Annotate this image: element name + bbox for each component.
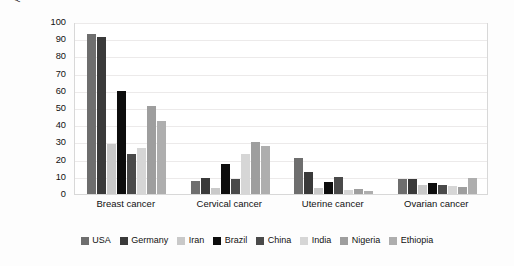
- y-tick-label: 50: [56, 104, 66, 113]
- legend-label: Iran: [189, 236, 205, 245]
- x-axis-labels: Breast cancerCervical cancerUterine canc…: [74, 198, 488, 214]
- bar-germany-breast[interactable]: [97, 37, 106, 194]
- bar-group: [75, 24, 179, 194]
- bar-groups: [75, 24, 487, 194]
- y-axis-title-text: Age-standardized incidence of cancer per…: [12, 0, 33, 18]
- bar-group: [386, 24, 490, 194]
- y-tick-label: 40: [56, 122, 66, 131]
- y-tick-label: 20: [56, 156, 66, 165]
- legend-label: USA: [92, 236, 111, 245]
- bar-nigeria-cervical[interactable]: [251, 142, 260, 194]
- bar-ethiopia-ovarian[interactable]: [468, 178, 477, 194]
- bar-iran-uterine[interactable]: [314, 188, 323, 194]
- legend-label: Germany: [131, 236, 168, 245]
- legend-label: Ethiopia: [401, 236, 434, 245]
- bar-group: [179, 24, 283, 194]
- bar-germany-cervical[interactable]: [201, 178, 210, 194]
- y-axis-ticks: 0102030405060708090100: [0, 23, 72, 195]
- bar-group: [282, 24, 386, 194]
- legend-swatch-icon: [81, 237, 89, 245]
- bar-usa-cervical[interactable]: [191, 181, 200, 194]
- bar-brazil-breast[interactable]: [117, 91, 126, 194]
- bar-usa-uterine[interactable]: [294, 158, 303, 194]
- legend-swatch-icon: [177, 237, 185, 245]
- legend-item-germany[interactable]: Germany: [120, 236, 169, 245]
- legend-swatch-icon: [120, 237, 128, 245]
- legend-label: Nigeria: [352, 236, 381, 245]
- chart-figure: Age-standardized incidence of cancer per…: [0, 0, 514, 266]
- legend-item-nigeria[interactable]: Nigeria: [340, 236, 380, 245]
- y-axis-title: Age-standardized incidence of cancer per…: [12, 0, 42, 18]
- plot-area: [74, 23, 488, 195]
- legend-item-china[interactable]: China: [256, 236, 291, 245]
- bar-china-breast[interactable]: [127, 154, 136, 194]
- y-tick-label: 10: [56, 173, 66, 182]
- x-axis-label: Uterine cancer: [302, 198, 364, 209]
- bar-china-uterine[interactable]: [334, 177, 343, 194]
- bar-iran-cervical[interactable]: [211, 188, 220, 194]
- bar-china-cervical[interactable]: [231, 179, 240, 194]
- bar-iran-breast[interactable]: [107, 144, 116, 194]
- bar-india-uterine[interactable]: [344, 190, 353, 194]
- y-tick-label: 100: [50, 18, 66, 27]
- x-axis-label: Cervical cancer: [197, 198, 262, 209]
- bar-india-cervical[interactable]: [241, 154, 250, 194]
- bar-nigeria-uterine[interactable]: [354, 189, 363, 194]
- chart-legend: USAGermanyIranBrazilChinaIndiaNigeriaEth…: [0, 236, 514, 245]
- bar-ethiopia-uterine[interactable]: [364, 191, 373, 194]
- bar-germany-uterine[interactable]: [304, 172, 313, 194]
- legend-swatch-icon: [389, 237, 397, 245]
- y-tick-label: 80: [56, 53, 66, 62]
- legend-label: Brazil: [225, 236, 248, 245]
- bar-india-breast[interactable]: [137, 148, 146, 194]
- bar-ethiopia-breast[interactable]: [157, 121, 166, 194]
- bar-china-ovarian[interactable]: [438, 185, 447, 194]
- y-tick-label: 90: [56, 36, 66, 45]
- bar-brazil-ovarian[interactable]: [428, 183, 437, 194]
- bar-nigeria-ovarian[interactable]: [458, 187, 467, 194]
- y-tick-label: 60: [56, 87, 66, 96]
- legend-item-ethiopia[interactable]: Ethiopia: [389, 236, 433, 245]
- legend-item-usa[interactable]: USA: [81, 236, 111, 245]
- y-tick-label: 0: [61, 190, 66, 199]
- legend-swatch-icon: [213, 237, 221, 245]
- x-axis-label: Ovarian cancer: [404, 198, 468, 209]
- bar-germany-ovarian[interactable]: [408, 179, 417, 194]
- legend-item-brazil[interactable]: Brazil: [213, 236, 247, 245]
- x-axis-label: Breast cancer: [96, 198, 155, 209]
- legend-item-iran[interactable]: Iran: [177, 236, 204, 245]
- legend-swatch-icon: [340, 237, 348, 245]
- bar-usa-ovarian[interactable]: [398, 179, 407, 194]
- bar-usa-breast[interactable]: [87, 34, 96, 194]
- bar-nigeria-breast[interactable]: [147, 106, 156, 194]
- legend-label: India: [312, 236, 332, 245]
- legend-label: China: [268, 236, 292, 245]
- bar-india-ovarian[interactable]: [448, 186, 457, 194]
- legend-swatch-icon: [300, 237, 308, 245]
- bar-iran-ovarian[interactable]: [418, 185, 427, 194]
- bar-ethiopia-cervical[interactable]: [261, 146, 270, 194]
- y-tick-label: 70: [56, 70, 66, 79]
- legend-item-india[interactable]: India: [300, 236, 331, 245]
- bar-brazil-uterine[interactable]: [324, 182, 333, 194]
- bar-brazil-cervical[interactable]: [221, 164, 230, 194]
- y-tick-label: 30: [56, 139, 66, 148]
- legend-swatch-icon: [256, 237, 264, 245]
